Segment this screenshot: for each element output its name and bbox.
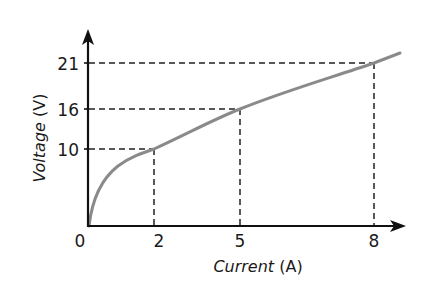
y-axis-label: Voltage (V) [30,94,49,183]
origin-label: 0 [75,231,86,251]
y-tick-10: 10 [57,140,79,160]
x-tick-8: 8 [369,231,380,251]
x-axis-label-unit: (A) [274,257,303,276]
x-axis-label: Current (A) [213,257,302,276]
x-tick-2: 2 [154,231,165,251]
y-axis-label-name: Voltage [30,122,49,182]
x-axis-label-name: Current [213,257,274,276]
x-tick-5: 5 [235,231,246,251]
y-tick-21: 21 [57,54,79,74]
vi-curve [89,53,400,226]
chart-svg: 21 16 10 0 2 5 8 Current (A) Voltage (V) [0,0,430,282]
y-tick-16: 16 [57,100,79,120]
y-axis-label-unit: (V) [30,94,49,123]
guide-lines [89,63,374,226]
